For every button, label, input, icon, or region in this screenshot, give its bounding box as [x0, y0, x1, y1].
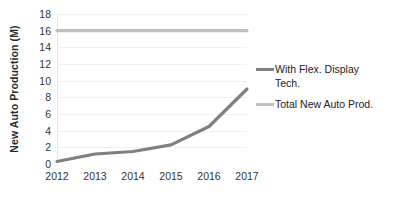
x-axis-tick-label: 2017: [235, 170, 258, 182]
x-axis-tick-label: 2015: [159, 170, 182, 182]
y-axis-title-label: New Auto Production (M): [8, 25, 20, 152]
y-axis-tick-label: 8: [45, 91, 51, 103]
plot-series-svg: [57, 14, 247, 164]
y-axis-tick-label: 6: [45, 108, 51, 120]
x-axis-tick-label: 2016: [197, 170, 220, 182]
legend-swatch-icon: [256, 103, 274, 106]
y-axis-tick-label: 10: [39, 75, 51, 87]
plot-area: [57, 14, 247, 164]
legend-entry[interactable]: With Flex. Display Tech.: [256, 62, 396, 90]
y-axis-title: New Auto Production (M): [0, 0, 28, 178]
y-axis-tick-label: 12: [39, 58, 51, 70]
x-axis-tick-label: 2012: [45, 170, 68, 182]
legend-label: With Flex. Display Tech.: [275, 62, 359, 90]
y-axis-tick-label: 14: [39, 41, 51, 53]
y-axis-tick-label: 18: [39, 8, 51, 20]
y-axis-tick-label: 0: [45, 158, 51, 170]
y-axis-tick-label: 2: [45, 141, 51, 153]
x-axis-tick-labels: 201220132014201520162017: [57, 170, 247, 190]
y-axis-tick-label: 4: [45, 125, 51, 137]
legend-swatch-icon: [256, 68, 274, 71]
y-axis-tick-labels: 024681012141618: [28, 8, 54, 171]
chart-legend: With Flex. Display Tech.Total New Auto P…: [256, 62, 396, 118]
y-axis-tick-label: 16: [39, 25, 51, 37]
line-chart: New Auto Production (M) 024681012141618 …: [0, 0, 396, 201]
legend-label: Total New Auto Prod.: [275, 97, 373, 111]
x-axis-tick-label: 2013: [83, 170, 106, 182]
series-line: [57, 89, 247, 162]
x-axis-tick-label: 2014: [121, 170, 144, 182]
legend-entry[interactable]: Total New Auto Prod.: [256, 97, 396, 111]
